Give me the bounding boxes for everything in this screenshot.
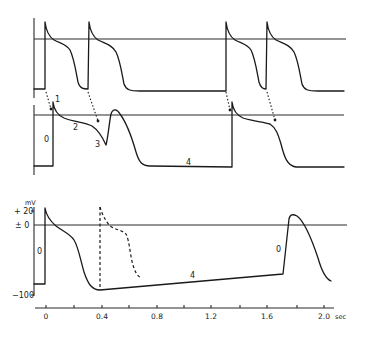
x-tick-label: 2.0 bbox=[318, 312, 330, 321]
x-tick-label: 0.4 bbox=[96, 312, 108, 321]
premature-ap-dashed-trace bbox=[100, 207, 141, 278]
y-tick-label-minus100: −100 bbox=[12, 291, 34, 300]
y-tick-label-zero: ± 0 bbox=[15, 221, 29, 230]
bottom-phase-label-4: 4 bbox=[190, 271, 195, 280]
y-unit-label: mV bbox=[25, 199, 36, 207]
x-tick-label: 0 bbox=[44, 312, 49, 321]
y-tick-label-plus20: + 20 bbox=[14, 207, 33, 216]
phase-label-3: 3 bbox=[95, 140, 100, 149]
phase-label-1: 1 bbox=[55, 95, 60, 104]
bottom-panel: mV + 20 ± 0 −100 0 4 0 bbox=[12, 199, 347, 300]
pacemaker-trace bbox=[34, 208, 331, 290]
action-potential-diagram: 1 2 3 0 4 mV + 20 ± 0 −100 0 4 0 bbox=[0, 0, 366, 350]
phase-label-4: 4 bbox=[186, 158, 191, 167]
top-panel bbox=[34, 18, 346, 98]
phase-label-0: 0 bbox=[44, 135, 49, 144]
connector-dot-1 bbox=[50, 108, 53, 111]
connector-dot-4 bbox=[274, 119, 277, 122]
connector-1 bbox=[46, 92, 51, 109]
connector-2 bbox=[88, 92, 98, 121]
x-tick-label: 1.2 bbox=[205, 312, 217, 321]
connector-3 bbox=[226, 92, 230, 110]
connector-dot-3 bbox=[229, 109, 232, 112]
bottom-phase-label-0-left: 0 bbox=[37, 247, 42, 256]
top-trace bbox=[34, 22, 344, 91]
middle-panel: 1 2 3 0 4 bbox=[34, 95, 344, 175]
connector-dot-2 bbox=[97, 120, 100, 123]
time-axis: 0 0.4 0.8 1.2 1.6 2.0 sec bbox=[35, 305, 346, 321]
x-tick-label: 0.8 bbox=[151, 312, 163, 321]
x-unit-label: sec bbox=[335, 313, 346, 321]
connector-4 bbox=[267, 92, 275, 120]
x-tick-label: 1.6 bbox=[261, 312, 273, 321]
bottom-phase-label-0-right: 0 bbox=[276, 245, 281, 254]
phase-label-2: 2 bbox=[73, 123, 78, 132]
